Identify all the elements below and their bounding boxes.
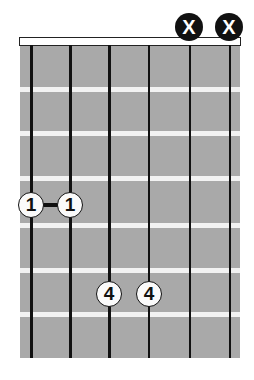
string-5 (189, 45, 191, 358)
finger-marker: 4 (96, 281, 122, 307)
mute-x-icon: X (175, 13, 203, 41)
string-6 (229, 45, 231, 358)
string-4 (148, 45, 150, 358)
fret-line-2 (20, 131, 240, 136)
fret-line-1 (20, 87, 240, 92)
fret-line-6 (20, 312, 240, 317)
finger-marker: 4 (136, 281, 162, 307)
finger-marker: 1 (57, 192, 83, 218)
finger-marker: 1 (18, 192, 44, 218)
fret-line-5 (20, 268, 240, 273)
nut (19, 37, 241, 46)
mute-x-icon: X (215, 13, 243, 41)
fret-line-4 (20, 223, 240, 228)
fret-line-3 (20, 176, 240, 181)
string-3 (108, 45, 111, 358)
